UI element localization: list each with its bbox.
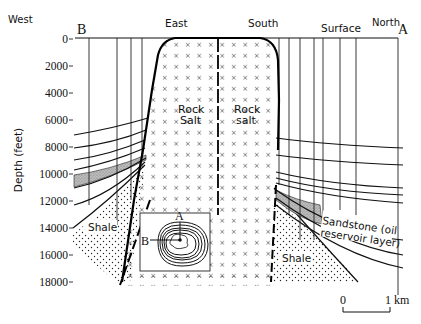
rock-salt-right-line2: salt [236, 114, 257, 127]
tick-0: 0 [62, 33, 68, 45]
south-label: South [248, 17, 279, 29]
tick-4000: 4000 [45, 87, 68, 99]
y-axis-ticks: 0 2000 4000 6000 8000 10000 12000 14000 … [39, 33, 73, 288]
tick-14000: 14000 [39, 222, 68, 234]
west-label: West [8, 14, 33, 25]
tick-18000: 18000 [39, 276, 68, 288]
salt-dome-cross-section: West East South Surface North B A Depth … [0, 0, 421, 324]
tick-2000: 2000 [45, 60, 68, 72]
tick-10000: 10000 [39, 168, 68, 180]
inset-label-a: A [175, 209, 184, 223]
section-end-a: A [398, 22, 409, 37]
east-label: East [165, 17, 188, 29]
shale-left-label: Shale [88, 221, 117, 233]
scale-end: 1 km [385, 293, 410, 307]
section-end-b: B [77, 22, 86, 37]
shale-right-label: Shale [282, 252, 311, 264]
north-label: North [372, 17, 400, 28]
tick-12000: 12000 [39, 195, 68, 207]
scale-bar: 0 1 km [340, 293, 410, 312]
y-axis-label: Depth (feet) [12, 128, 24, 192]
tick-6000: 6000 [45, 114, 68, 126]
tick-8000: 8000 [45, 141, 68, 153]
scale-start: 0 [340, 293, 346, 307]
inset-map: A B [140, 209, 210, 271]
inset-label-b: B [141, 234, 149, 248]
tick-16000: 16000 [39, 249, 68, 261]
surface-label: Surface [321, 22, 361, 34]
rock-salt-left-line2: Salt [180, 114, 202, 127]
